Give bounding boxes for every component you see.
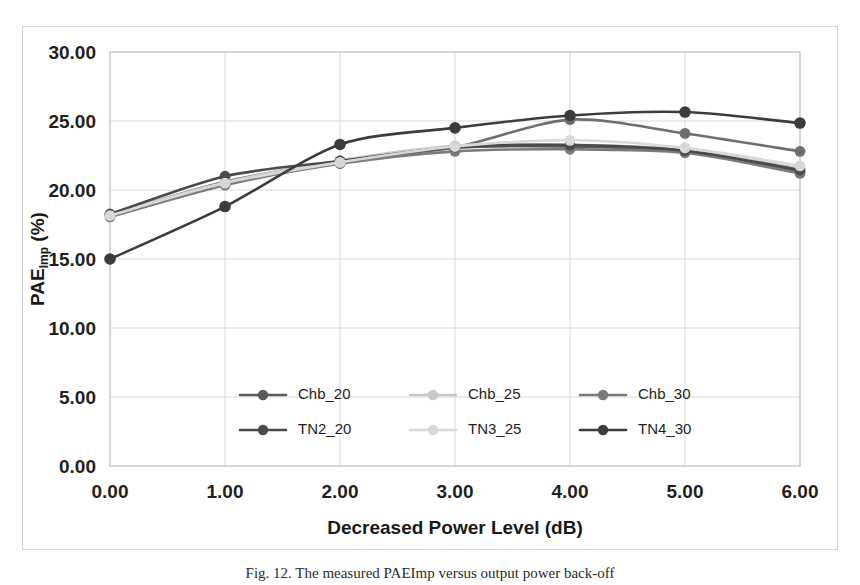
legend-item-Chb_25[interactable]: Chb_25 [410, 385, 521, 402]
data-point-Chb_30_upper-5 [680, 128, 691, 139]
data-point-TN3_25-0 [105, 210, 116, 221]
x-tick-label: 5.00 [667, 481, 704, 502]
y-axis-title: PAEImp (%) [27, 212, 51, 306]
legend-swatch-marker-Chb_25 [428, 390, 438, 400]
legend-swatch-marker-Chb_30 [598, 390, 608, 400]
gridlines [110, 52, 800, 466]
line-chart: 0.005.0010.0015.0020.0025.0030.000.001.0… [0, 0, 860, 585]
data-point-TN3_25-2 [335, 157, 346, 168]
data-point-TN3_25-6 [795, 160, 806, 171]
x-tick-label: 1.00 [207, 481, 244, 502]
legend-label-TN2_20: TN2_20 [298, 420, 351, 437]
y-tick-label: 25.00 [48, 111, 96, 132]
chart-canvas: 0.005.0010.0015.0020.0025.0030.000.001.0… [0, 0, 860, 585]
chart-legend: Chb_20Chb_25Chb_30TN2_20TN3_25TN4_30 [240, 385, 691, 437]
y-tick-label: 15.00 [48, 249, 96, 270]
x-tick-label: 4.00 [552, 481, 589, 502]
y-tick-label: 0.00 [59, 456, 96, 477]
data-point-Chb_30_upper-6 [795, 146, 806, 157]
x-tick-label: 2.00 [322, 481, 359, 502]
legend-label-TN4_30: TN4_30 [638, 420, 691, 437]
data-point-TN4_30-3 [449, 122, 461, 134]
data-point-TN4_30-6 [794, 117, 806, 129]
legend-label-TN3_25: TN3_25 [468, 420, 521, 437]
figure-caption: Fig. 12. The measured PAEImp versus outp… [0, 562, 860, 585]
x-tick-label: 6.00 [782, 481, 819, 502]
x-tick-label: 3.00 [437, 481, 474, 502]
data-point-TN3_25-4 [565, 135, 576, 146]
legend-swatch-marker-TN4_30 [598, 425, 608, 435]
legend-swatch-marker-TN3_25 [428, 425, 438, 435]
legend-item-TN3_25[interactable]: TN3_25 [410, 420, 521, 437]
legend-item-Chb_30[interactable]: Chb_30 [580, 385, 691, 402]
y-tick-label: 20.00 [48, 180, 96, 201]
y-axis-title-text: PAEImp (%) [27, 212, 51, 306]
data-point-TN3_25-1 [220, 178, 231, 189]
legend-item-Chb_20[interactable]: Chb_20 [240, 385, 351, 402]
y-axis-title-unit: (%) [27, 212, 48, 247]
data-point-TN4_30-0 [104, 253, 116, 265]
legend-label-Chb_20: Chb_20 [298, 385, 351, 402]
y-axis-ticks: 0.005.0010.0015.0020.0025.0030.00 [48, 42, 96, 477]
data-point-TN4_30-2 [334, 139, 346, 151]
legend-swatch-marker-TN2_20 [258, 425, 268, 435]
y-tick-label: 30.00 [48, 42, 96, 63]
legend-label-Chb_30: Chb_30 [638, 385, 691, 402]
y-tick-label: 5.00 [59, 387, 96, 408]
legend-swatch-marker-Chb_20 [258, 390, 268, 400]
data-point-TN4_30-1 [219, 201, 231, 213]
data-point-TN3_25-5 [680, 143, 691, 154]
x-tick-label: 0.00 [92, 481, 129, 502]
x-axis-ticks: 0.001.002.003.004.005.006.00 [92, 481, 819, 502]
legend-item-TN4_30[interactable]: TN4_30 [580, 420, 691, 437]
data-point-TN4_30-4 [564, 110, 576, 122]
y-tick-label: 10.00 [48, 318, 96, 339]
x-axis-title: Decreased Power Level (dB) [327, 517, 583, 538]
y-axis-title-subscript: Imp [37, 247, 51, 268]
y-axis-title-main: PAE [27, 268, 48, 306]
legend-item-TN2_20[interactable]: TN2_20 [240, 420, 351, 437]
legend-label-Chb_25: Chb_25 [468, 385, 521, 402]
data-point-TN3_25-3 [450, 141, 461, 152]
data-point-TN4_30-5 [679, 106, 691, 118]
